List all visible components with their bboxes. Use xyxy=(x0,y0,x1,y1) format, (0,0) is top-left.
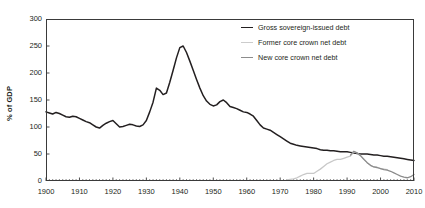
debt-to-gdp-line-chart: % of GDP 300250200150100500 190019101920… xyxy=(0,0,425,208)
legend-swatch-line-icon xyxy=(241,57,253,58)
legend-item: Former core crown net debt xyxy=(241,35,416,50)
legend-swatch-line-icon xyxy=(241,27,253,28)
legend-item-label: Gross sovereign-issued debt xyxy=(258,24,350,31)
legend-item-label: New core crown net debt xyxy=(258,54,338,61)
chart-legend: Gross sovereign-issued debtFormer core c… xyxy=(241,20,416,65)
legend-item-label: Former core crown net debt xyxy=(258,39,346,46)
legend-item: New core crown net debt xyxy=(241,50,416,65)
legend-item: Gross sovereign-issued debt xyxy=(241,20,416,35)
legend-swatch-line-icon xyxy=(241,42,253,43)
